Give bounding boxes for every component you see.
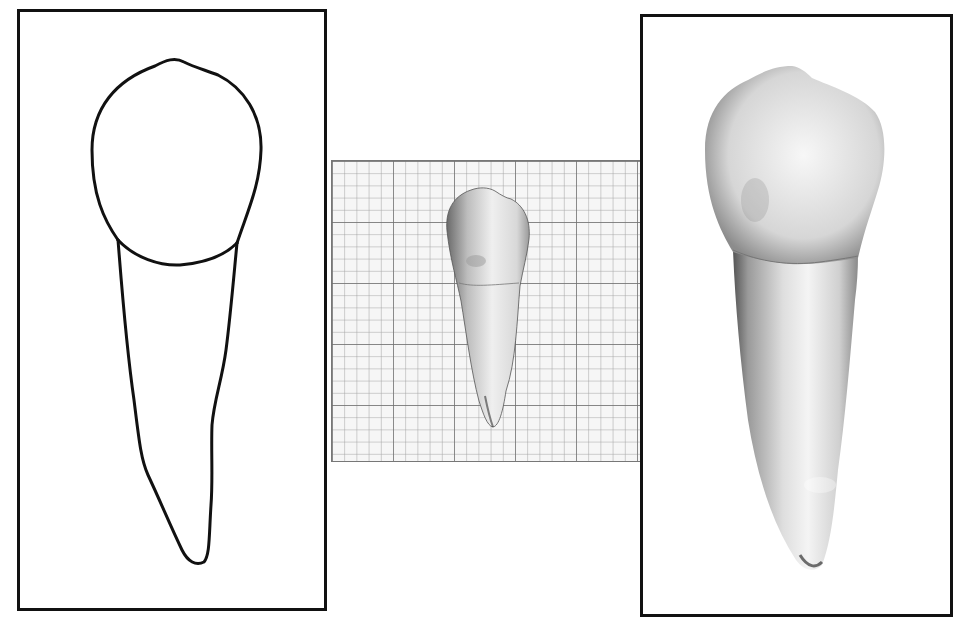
tooth-outline-drawing bbox=[20, 12, 324, 608]
enlarged-photo-panel: Enlarged photograph of tooth (crown and … bbox=[640, 14, 953, 617]
outline-drawing-panel: Outline drawing of tooth (crown and root… bbox=[17, 9, 327, 611]
graph-paper-panel: Tooth specimen on millimeter graph paper bbox=[331, 160, 644, 462]
tooth-photograph bbox=[643, 17, 950, 614]
graph-paper-with-tooth bbox=[332, 161, 643, 461]
